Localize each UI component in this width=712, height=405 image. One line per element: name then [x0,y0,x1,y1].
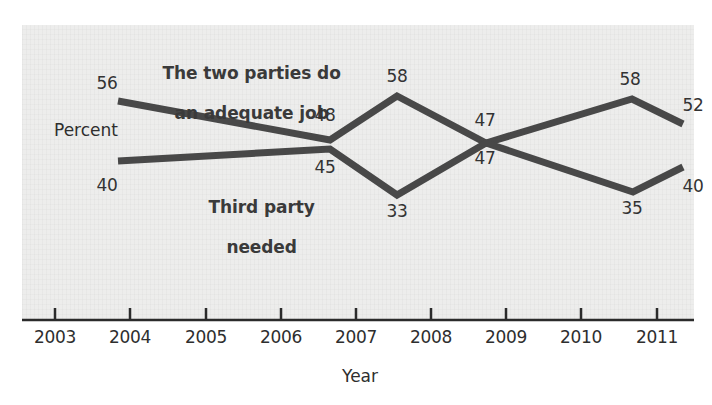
x-tick-label-2008: 2008 [401,327,461,347]
data-label-bottom-2007: 33 [386,201,407,221]
series-annotation-third-party-line1: Third party [209,197,315,217]
x-axis-label: Year [300,366,420,386]
x-tick-label-2009: 2009 [476,327,536,347]
x-axis-ticks [55,308,657,320]
series-annotation-third-party-line2: needed [226,237,296,257]
data-label-bottom-2010: 35 [621,198,642,218]
series-annotation-two-parties-line2: an adequate job [175,103,329,123]
data-label-bottom-2011: 40 [682,176,703,196]
series-annotation-two-parties-line1: The two parties do [163,63,341,83]
y-axis-label: Percent [54,120,118,140]
data-label-top-2006: 48 [314,105,335,125]
x-tick-label-2003: 2003 [25,327,85,347]
data-label-top-2004: 56 [96,73,117,93]
data-label-bottom-2009: 47 [474,148,495,168]
x-tick-label-2011: 2011 [627,327,687,347]
x-tick-label-2007: 2007 [326,327,386,347]
chart-figure: Percent The two parties do an adequate j… [0,0,712,405]
x-tick-label-2010: 2010 [551,327,611,347]
data-label-top-2010: 58 [619,69,640,89]
data-label-top-2009: 47 [474,110,495,130]
data-label-top-2007: 58 [386,66,407,86]
series-annotation-two-parties: The two parties do an adequate job [139,43,340,143]
data-label-bottom-2004: 40 [96,175,117,195]
series-annotation-third-party: Third party needed [185,177,314,277]
data-label-top-2011: 52 [682,95,703,115]
data-label-bottom-2006: 45 [314,157,335,177]
x-tick-label-2006: 2006 [251,327,311,347]
x-tick-label-2004: 2004 [100,327,160,347]
x-tick-label-2005: 2005 [176,327,236,347]
